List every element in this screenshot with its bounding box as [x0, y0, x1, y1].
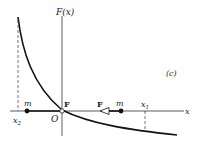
x1-label: x1: [141, 100, 149, 110]
right-mass-dot: [119, 109, 124, 114]
x2-label: x2: [13, 116, 22, 126]
force-diagram: F(x) x (c) O m m F F x2 x1: [0, 0, 198, 143]
x-axis-label: x: [185, 107, 190, 116]
origin-circle: [60, 109, 64, 113]
force-label-origin: F: [64, 99, 70, 109]
panel-label: (c): [166, 69, 177, 78]
mass-label-right: m: [116, 99, 124, 108]
y-axis-label: F(x): [55, 7, 75, 17]
left-mass-dot: [25, 109, 30, 114]
force-label-arrow: F: [97, 99, 103, 109]
force-curve: [18, 17, 177, 135]
origin-label: O: [51, 114, 59, 124]
mass-label-left: m: [24, 99, 32, 108]
